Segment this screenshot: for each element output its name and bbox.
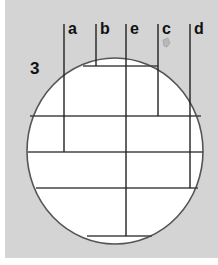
line-diagram: abecd 3 xyxy=(0,0,218,265)
line-label-d: d xyxy=(194,20,204,37)
circle xyxy=(27,58,203,244)
line-label-b: b xyxy=(100,20,110,37)
line-label-c: c xyxy=(162,20,171,37)
line-label-a: a xyxy=(68,20,77,37)
line-label-e: e xyxy=(130,20,139,37)
figure-number: 3 xyxy=(30,59,39,78)
